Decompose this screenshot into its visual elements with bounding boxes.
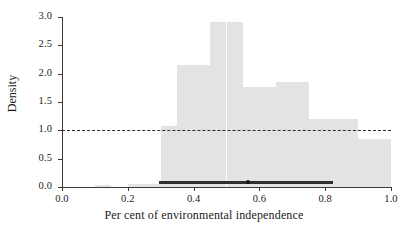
- x-tick: [128, 187, 129, 191]
- histogram-figure: 0.00.20.40.60.81.0 0.00.51.01.52.02.53.0…: [0, 0, 408, 232]
- y-tick: [58, 187, 62, 188]
- histogram-bar: [325, 119, 341, 187]
- x-tick-label: 0.4: [174, 193, 214, 204]
- histogram-bar: [161, 126, 177, 187]
- x-tick-label: 0.2: [108, 193, 148, 204]
- x-tick-label: 1.0: [371, 193, 408, 204]
- y-axis-line: [62, 17, 63, 187]
- y-tick: [58, 74, 62, 75]
- histogram-bar: [375, 139, 391, 187]
- histogram-bar: [342, 119, 358, 187]
- y-tick-label: 0.5: [0, 152, 52, 163]
- histogram-bars: [62, 17, 391, 187]
- histogram-bar: [358, 139, 374, 187]
- histogram-bar: [292, 82, 308, 187]
- histogram-bar: [210, 22, 226, 187]
- histogram-bar: [177, 65, 193, 187]
- histogram-bar: [194, 65, 210, 187]
- x-tick-label: 0.0: [42, 193, 82, 204]
- y-tick-label: 0.0: [0, 180, 52, 191]
- y-tick-label: 2.5: [0, 38, 52, 49]
- x-tick-label: 0.6: [239, 193, 279, 204]
- histogram-bar: [227, 22, 243, 187]
- y-tick: [58, 159, 62, 160]
- x-tick: [194, 187, 195, 191]
- y-tick: [58, 130, 62, 131]
- x-tick: [325, 187, 326, 191]
- x-axis-line: [62, 187, 391, 188]
- y-axis-title: Density: [5, 59, 20, 129]
- reference-line: [62, 130, 391, 131]
- histogram-bar: [276, 82, 292, 187]
- histogram-bar: [243, 87, 259, 187]
- x-tick: [62, 187, 63, 191]
- y-tick: [58, 102, 62, 103]
- interval-point-estimate: [246, 180, 250, 184]
- x-tick: [259, 187, 260, 191]
- x-tick: [391, 187, 392, 191]
- histogram-bar: [309, 119, 325, 187]
- x-axis-title: Per cent of environmental independence: [0, 208, 408, 223]
- histogram-bar: [259, 87, 275, 187]
- y-tick-label: 3.0: [0, 10, 52, 21]
- y-tick: [58, 17, 62, 18]
- plot-area: [62, 17, 391, 187]
- x-tick-label: 0.8: [305, 193, 345, 204]
- y-tick: [58, 45, 62, 46]
